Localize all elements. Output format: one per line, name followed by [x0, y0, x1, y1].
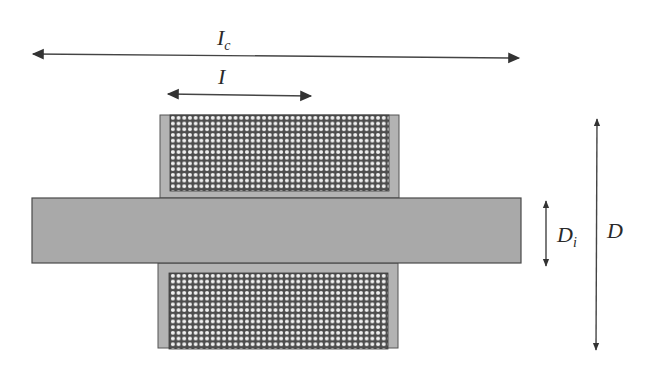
core-rod	[32, 198, 521, 263]
outer-diameter-label: D	[606, 218, 623, 243]
solenoid-diagram: Ic I Di D	[0, 0, 652, 373]
core-length-arrow	[33, 54, 519, 58]
core-length-dimension: Ic	[33, 25, 519, 58]
winding-top	[170, 115, 389, 191]
outer-diameter-arrow	[596, 119, 597, 350]
core-length-label: Ic	[216, 25, 231, 53]
coil-length-dimension: I	[168, 64, 311, 96]
winding-bottom	[169, 273, 388, 349]
coil-length-label: I	[217, 64, 227, 89]
inner-diameter-dimension: Di	[546, 201, 577, 266]
coil-length-arrow	[168, 94, 311, 96]
coil-bottom	[158, 263, 398, 349]
inner-diameter-label: Di	[556, 222, 577, 250]
coil-top	[160, 115, 399, 198]
outer-diameter-dimension: D	[596, 119, 623, 350]
